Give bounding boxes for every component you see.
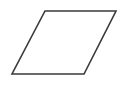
diagram-canvas [0,0,120,97]
parallelogram-shape [12,11,116,74]
